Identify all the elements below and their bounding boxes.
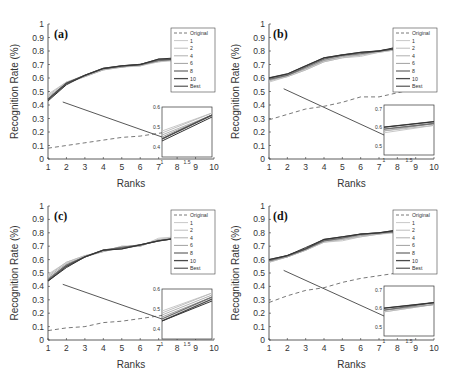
y-tick-label: 0.8 bbox=[32, 228, 44, 238]
inset-x-tick-label: 1.5 bbox=[184, 159, 191, 165]
x-tick-label: 1 bbox=[267, 343, 272, 353]
legend: Original1246810Best bbox=[171, 28, 215, 92]
x-tick-label: 1 bbox=[46, 343, 51, 353]
y-tick-label: 0.3 bbox=[32, 114, 44, 124]
y-tick-label: 0.6 bbox=[253, 73, 265, 83]
legend-entry-label: 6 bbox=[190, 60, 193, 66]
inset-y-tick-label: 0.7 bbox=[375, 106, 382, 112]
legend-entry-label: 1 bbox=[190, 220, 193, 226]
y-axis-label: Recognition Rate (%) bbox=[230, 225, 241, 320]
y-tick-label: 0.8 bbox=[253, 46, 265, 56]
legend-entry-label: Original bbox=[412, 212, 430, 218]
x-tick-label: 10 bbox=[429, 343, 439, 353]
legend-entry-label: 6 bbox=[412, 242, 415, 248]
y-tick-label: 0.1 bbox=[32, 141, 44, 151]
legend-entry-label: 6 bbox=[190, 242, 193, 248]
x-tick-label: 3 bbox=[83, 343, 88, 353]
x-tick-label: 10 bbox=[209, 162, 219, 172]
x-tick-label: 8 bbox=[175, 343, 180, 353]
x-tick-label: 2 bbox=[64, 343, 69, 353]
chart-panel-c: 00.10.20.30.40.50.60.70.80.9112345678910… bbox=[9, 201, 219, 370]
y-tick-label: 0.7 bbox=[32, 60, 44, 70]
x-tick-label: 9 bbox=[413, 343, 418, 353]
x-axis-label: Ranks bbox=[117, 359, 145, 370]
legend-entry-label: 10 bbox=[412, 76, 418, 82]
chart-panel-b: 00.10.20.30.40.50.60.70.80.9112345678910… bbox=[230, 19, 439, 189]
y-tick-label: 0.1 bbox=[32, 322, 44, 332]
y-tick-label: 0 bbox=[260, 154, 265, 164]
panel-label: (c) bbox=[54, 209, 67, 223]
x-tick-label: 2 bbox=[64, 162, 69, 172]
y-tick-label: 0.9 bbox=[253, 214, 265, 224]
legend: Original1246810Best bbox=[393, 210, 437, 274]
x-tick-label: 9 bbox=[193, 162, 198, 172]
y-tick-label: 0.7 bbox=[253, 241, 265, 251]
inset-y-tick-label: 0.6 bbox=[375, 305, 382, 311]
chart-panel-a: 00.10.20.30.40.50.60.70.80.9112345678910… bbox=[9, 19, 219, 189]
inset-x-tick-label: 1 bbox=[383, 338, 386, 344]
legend-entry-label: 2 bbox=[190, 227, 193, 233]
legend-entry-label: Original bbox=[190, 30, 208, 36]
legend-entry-label: Best bbox=[412, 265, 423, 271]
y-axis-label: Recognition Rate (%) bbox=[230, 44, 241, 139]
inset-x-tick-label: 1 bbox=[383, 157, 386, 163]
panel-label: (b) bbox=[273, 27, 288, 41]
zoom-connector-line bbox=[63, 284, 162, 319]
y-tick-label: 0.5 bbox=[253, 87, 265, 97]
panel-label: (d) bbox=[273, 209, 288, 223]
figure-canvas: 00.10.20.30.40.50.60.70.80.9112345678910… bbox=[0, 0, 453, 382]
legend-entry-label: 8 bbox=[412, 250, 415, 256]
x-tick-label: 3 bbox=[83, 162, 88, 172]
y-tick-label: 0.2 bbox=[253, 127, 265, 137]
inset-y-tick-label: 0.5 bbox=[375, 143, 382, 149]
legend-entry-label: 6 bbox=[412, 60, 415, 66]
y-tick-label: 0.8 bbox=[253, 228, 265, 238]
legend-entry-label: 4 bbox=[412, 53, 415, 59]
inset-y-tick-label: 0.6 bbox=[375, 124, 382, 130]
inset-y-tick-label: 0.4 bbox=[153, 326, 160, 332]
legend-entry-label: 4 bbox=[190, 53, 193, 59]
legend-entry-label: 4 bbox=[190, 235, 193, 241]
y-tick-label: 0.4 bbox=[253, 281, 265, 291]
legend-entry-label: Best bbox=[412, 83, 423, 89]
x-axis-label: Ranks bbox=[117, 178, 145, 189]
x-tick-label: 4 bbox=[322, 343, 327, 353]
legend-entry-label: 1 bbox=[190, 38, 193, 44]
y-tick-label: 0.3 bbox=[253, 295, 265, 305]
legend-entry-label: Original bbox=[190, 212, 208, 218]
y-tick-label: 0 bbox=[260, 335, 265, 345]
y-tick-label: 1 bbox=[260, 201, 265, 211]
legend-entry-label: 1 bbox=[412, 220, 415, 226]
figure: 00.10.20.30.40.50.60.70.80.9112345678910… bbox=[0, 0, 453, 382]
y-tick-label: 0.1 bbox=[253, 141, 265, 151]
y-tick-label: 0.4 bbox=[32, 100, 44, 110]
y-tick-label: 0 bbox=[39, 335, 44, 345]
y-tick-label: 0.7 bbox=[253, 60, 265, 70]
y-tick-label: 0.1 bbox=[253, 322, 265, 332]
legend-entry-label: 10 bbox=[190, 76, 196, 82]
legend-entry-label: 8 bbox=[190, 250, 193, 256]
x-tick-label: 4 bbox=[322, 162, 327, 172]
y-tick-label: 0.9 bbox=[253, 33, 265, 43]
legend: Original1246810Best bbox=[171, 210, 215, 274]
y-tick-label: 1 bbox=[39, 201, 44, 211]
inset-y-tick-label: 0.5 bbox=[375, 324, 382, 330]
x-tick-label: 5 bbox=[119, 343, 124, 353]
panel-label: (a) bbox=[54, 27, 68, 41]
inset-x-tick-label: 1.5 bbox=[406, 338, 413, 344]
zoom-connector-line bbox=[284, 270, 384, 316]
x-tick-label: 5 bbox=[340, 343, 345, 353]
legend-entry-label: 2 bbox=[412, 227, 415, 233]
y-tick-label: 0.2 bbox=[32, 308, 44, 318]
legend-entry-label: 8 bbox=[190, 68, 193, 74]
y-tick-label: 0 bbox=[39, 154, 44, 164]
inset-plot: 0.40.50.611.5 bbox=[153, 286, 212, 347]
x-tick-label: 5 bbox=[119, 162, 124, 172]
x-tick-label: 6 bbox=[138, 162, 143, 172]
y-tick-label: 0.5 bbox=[32, 87, 44, 97]
inset-y-tick-label: 0.4 bbox=[153, 144, 160, 150]
y-tick-label: 0.2 bbox=[32, 127, 44, 137]
x-tick-label: 9 bbox=[413, 162, 418, 172]
y-tick-label: 0.5 bbox=[253, 268, 265, 278]
y-tick-label: 0.4 bbox=[253, 100, 265, 110]
